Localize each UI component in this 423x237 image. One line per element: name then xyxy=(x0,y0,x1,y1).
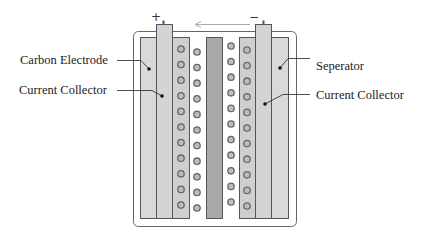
ion-circle xyxy=(244,172,250,178)
ion-circle xyxy=(194,111,200,117)
left-carbon-electrode xyxy=(141,38,157,219)
ion-circle xyxy=(244,94,250,100)
ion-circle xyxy=(194,189,200,195)
ion-circle xyxy=(178,139,184,145)
ion-circle xyxy=(194,142,200,148)
right-current-collector xyxy=(256,25,272,219)
ion-circle xyxy=(244,187,250,193)
ion-circle xyxy=(244,62,250,68)
ion-circle xyxy=(228,121,234,127)
ion-circle xyxy=(244,125,250,131)
separator xyxy=(207,38,223,219)
ion-circle xyxy=(228,90,234,96)
ion-circle xyxy=(194,64,200,70)
ion-circle xyxy=(228,74,234,80)
ion-circle xyxy=(228,58,234,64)
ion-circle xyxy=(244,203,250,209)
ion-circle xyxy=(194,205,200,211)
ion-circle xyxy=(194,80,200,86)
ion-circle xyxy=(178,124,184,130)
label-current-collector-left: Current Collector xyxy=(19,84,107,97)
ion-circle xyxy=(228,43,234,49)
ion-circle xyxy=(244,156,250,162)
label-current-collector-right: Current Collector xyxy=(316,89,404,102)
right-carbon-electrode xyxy=(272,38,289,219)
ion-circle xyxy=(228,136,234,142)
supercapacitor-diagram: + − xyxy=(0,0,423,237)
ion-circle xyxy=(178,93,184,99)
ion-circle xyxy=(194,174,200,180)
ion-circle xyxy=(178,61,184,67)
ion-circle xyxy=(178,77,184,83)
negative-terminal-symbol: − xyxy=(249,10,259,24)
ion-circle xyxy=(178,186,184,192)
negative-terminal-nub xyxy=(263,21,265,25)
label-separator: Seperator xyxy=(316,60,364,73)
ion-circle xyxy=(194,49,200,55)
ion-circle xyxy=(194,96,200,102)
ion-circle xyxy=(228,168,234,174)
positive-terminal-nub xyxy=(163,21,165,25)
ion-circle xyxy=(244,140,250,146)
ion-circle xyxy=(244,109,250,115)
ion-circle xyxy=(194,127,200,133)
ion-circle xyxy=(178,46,184,52)
arrow-left-icon xyxy=(195,22,250,28)
ion-circle xyxy=(178,202,184,208)
left-current-collector xyxy=(157,25,173,219)
positive-terminal-symbol: + xyxy=(151,10,161,24)
ion-circle xyxy=(228,105,234,111)
label-carbon-electrode: Carbon Electrode xyxy=(20,54,108,67)
ion-circle xyxy=(228,152,234,158)
ion-circle xyxy=(244,78,250,84)
ion-circle xyxy=(244,47,250,53)
ion-circle xyxy=(178,108,184,114)
ion-circle xyxy=(194,158,200,164)
ion-circle xyxy=(228,183,234,189)
ion-circle xyxy=(228,199,234,205)
ion-circle xyxy=(178,155,184,161)
ion-circle xyxy=(178,171,184,177)
